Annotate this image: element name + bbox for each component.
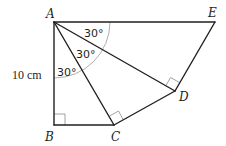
edge-ad <box>54 22 175 91</box>
vertex-label-b: B <box>44 130 54 144</box>
length-label-ab: 10 cm <box>12 68 42 82</box>
vertex-label-a: A <box>45 7 55 21</box>
right-angle-marker-b <box>54 114 65 125</box>
edge-de <box>175 22 215 91</box>
vertex-label-c: C <box>111 130 120 144</box>
edge-cd <box>114 91 175 125</box>
angle-label-dae: 30° <box>84 27 104 40</box>
angle-label-cad: 30° <box>76 48 96 61</box>
right-angle-marker-c <box>110 111 124 120</box>
angle-label-bac: 30° <box>57 66 77 79</box>
vertex-label-d: D <box>178 90 189 104</box>
right-angle-marker-d <box>166 78 180 86</box>
geometry-diagram: A B C D E 30° 30° 30° 10 cm <box>0 0 226 146</box>
vertex-label-e: E <box>207 6 217 20</box>
